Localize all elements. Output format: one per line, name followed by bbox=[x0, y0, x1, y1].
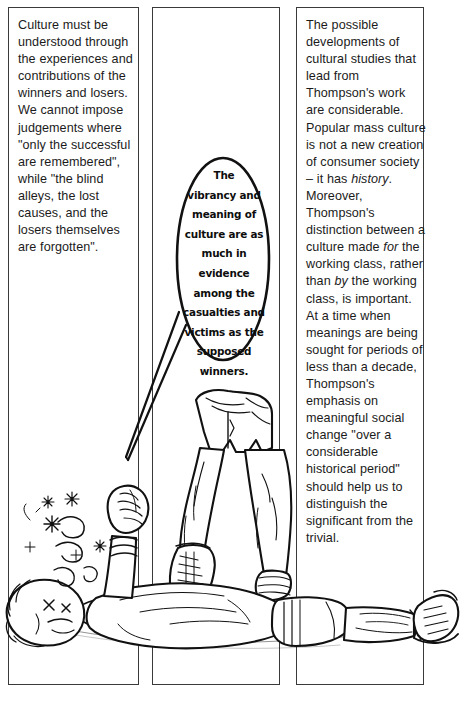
balloon-line: vibrancy and bbox=[176, 186, 272, 206]
balloon-line: among the bbox=[176, 284, 272, 304]
balloon-line: victims as the bbox=[176, 323, 272, 343]
balloon-line: meaning of bbox=[176, 205, 272, 225]
speech-balloon-text: Thevibrancy andmeaning ofculture are asm… bbox=[176, 166, 272, 382]
balloon-line: casualties and bbox=[176, 303, 272, 323]
balloon-line: The bbox=[176, 166, 272, 186]
text-column-right: The possible developments of cultural st… bbox=[296, 7, 424, 685]
balloon-line: much in evidence bbox=[176, 244, 272, 283]
comic-page: Culture must be understood through the e… bbox=[0, 0, 461, 705]
text-column-left: Culture must be understood through the e… bbox=[8, 7, 139, 685]
balloon-line: culture are as bbox=[176, 225, 272, 245]
balloon-line: supposed bbox=[176, 342, 272, 362]
column-left-text: Culture must be understood through the e… bbox=[18, 17, 140, 256]
balloon-line: winners. bbox=[176, 362, 272, 382]
column-right-text: The possible developments of cultural st… bbox=[306, 17, 426, 547]
